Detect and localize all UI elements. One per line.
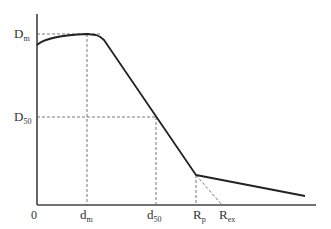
dose-depth-diagram: Dm D50 0 dm d50 Rp Rex bbox=[0, 0, 331, 229]
x-label-dm: dm bbox=[80, 207, 94, 224]
x-label-rex: Rex bbox=[219, 207, 235, 224]
guide-lines bbox=[37, 34, 222, 205]
dose-curve bbox=[37, 34, 305, 196]
x-label-d50: d50 bbox=[147, 207, 162, 224]
x-label-rp: Rp bbox=[193, 207, 206, 224]
y-label-d50: D50 bbox=[14, 109, 31, 126]
x-label-origin: 0 bbox=[31, 208, 37, 222]
y-label-dm: Dm bbox=[14, 26, 30, 43]
